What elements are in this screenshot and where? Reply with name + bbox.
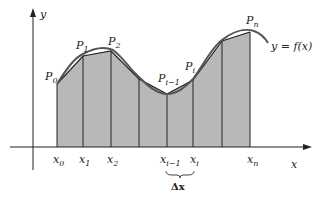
- tick-label-x0: x0: [53, 153, 64, 168]
- x-axis-label: x: [291, 158, 298, 171]
- point-label-p0: P0: [44, 70, 58, 85]
- tick-label-x2: x2: [107, 153, 118, 168]
- point-label-pi: Pi: [184, 60, 195, 75]
- tick-label-x1: x1: [79, 153, 90, 168]
- curve-label: y = f(x): [270, 40, 312, 53]
- riemann-polygon-diagram: y x P0 P1 P2 Pi−1 Pi Pn y = f(x) x0 x1 x…: [0, 0, 321, 198]
- point-label-p1: P1: [75, 39, 89, 54]
- tick-label-xn: xn: [247, 153, 258, 168]
- interval-brace-icon: [166, 171, 194, 178]
- point-label-pn: Pn: [245, 14, 259, 29]
- tick-label-xi-1: xi−1: [160, 153, 181, 168]
- y-axis-label: y: [39, 8, 47, 21]
- x-axis-arrow-icon: [303, 144, 312, 150]
- point-label-p2: P2: [107, 35, 121, 50]
- y-axis-arrow-icon: [30, 8, 36, 17]
- delta-x-label: Δx: [171, 181, 186, 192]
- point-label-pi-1: Pi−1: [157, 72, 180, 87]
- tick-label-xi: xi: [190, 153, 199, 168]
